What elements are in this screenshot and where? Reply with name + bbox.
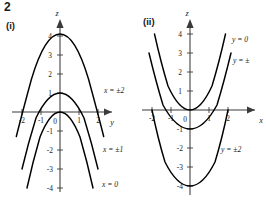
panel-i-yticklabel-2: 2 xyxy=(48,70,52,79)
figure-root: 2 (i) xyxy=(0,0,266,202)
panel-ii-yticklabel-1: 1 xyxy=(178,87,182,96)
panel-ii-horizontal-axis-label: x xyxy=(258,116,263,125)
panel-i-xticklabel-1: 1 xyxy=(77,116,81,125)
panel-ii-yticklabel-neg3: -3 xyxy=(177,163,183,172)
panel-ii-plot: 4 3 2 1 -1 -2 -3 -4 -2 -1 0 1 2 z x xyxy=(133,0,266,202)
panel-i-curvelabel-x-0: x = 0 xyxy=(101,180,118,189)
panel-ii-curvelabel-y-0: y = 0 xyxy=(231,35,248,44)
panel-ii-vertical-axis-label: z xyxy=(184,9,189,18)
panel-i-curvelabel-x-pm1: x = ±1 xyxy=(102,145,123,154)
panel-i-vertical-axis-arrow xyxy=(56,19,63,28)
panel-ii-xticklabel-0: 0 xyxy=(183,115,187,124)
panel-i-yticklabel-3: 3 xyxy=(48,51,52,60)
panel-ii-curvelabel-y-pm1: y = ± xyxy=(232,56,249,65)
panel-i-vertical-axis-label: z xyxy=(54,9,59,18)
panel-ii-curvelabel-y-pm2: y = ±2 xyxy=(220,145,241,154)
panel-i-yticklabel-neg4: -4 xyxy=(47,184,53,193)
panel-i-horizontal-axis-label: y xyxy=(109,118,114,127)
panel-ii-yticklabel-4: 4 xyxy=(178,30,182,39)
panel-i: (i) xyxy=(0,0,133,202)
panel-i-yticklabel-neg3: -3 xyxy=(47,165,53,174)
panel-ii-vertical-axis-arrow xyxy=(186,19,193,28)
panel-i-horizontal-axis-arrow xyxy=(104,108,112,115)
panel-ii-horizontal-axis-arrow xyxy=(247,106,255,113)
panel-ii-yticklabel-neg2: -2 xyxy=(177,144,183,153)
panel-i-curvelabel-x-pm2: x = ±2 xyxy=(103,86,124,95)
panel-ii-yticklabel-3: 3 xyxy=(178,49,182,58)
panel-i-yticklabel-neg1: -1 xyxy=(47,127,53,136)
panel-ii-yticklabel-2: 2 xyxy=(178,68,182,77)
panel-i-yticklabel-neg2: -2 xyxy=(47,146,53,155)
panel-ii: (ii) xyxy=(133,0,266,202)
panel-i-plot: 4 3 2 1 -1 -2 -3 -4 -2 -1 0 1 2 z y xyxy=(0,0,133,202)
panel-i-xticklabel-0: 0 xyxy=(53,117,57,126)
panel-i-xticklabel-neg1: -1 xyxy=(38,116,44,125)
